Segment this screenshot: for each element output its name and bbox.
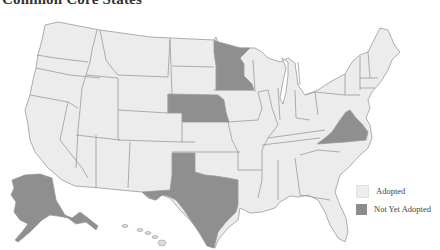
legend-swatch-not-yet-adopted: [356, 204, 367, 215]
legend-label-not-yet-adopted: Not Yet Adopted: [374, 204, 431, 214]
map-legend: Adopted Not Yet Adopted: [356, 182, 431, 218]
legend-label-adopted: Adopted: [376, 186, 405, 196]
legend-item-adopted: Adopted: [356, 182, 431, 200]
state-hawaii: [122, 225, 166, 247]
legend-item-not-yet-adopted: Not Yet Adopted: [356, 200, 431, 218]
legend-swatch-adopted: [356, 185, 369, 198]
